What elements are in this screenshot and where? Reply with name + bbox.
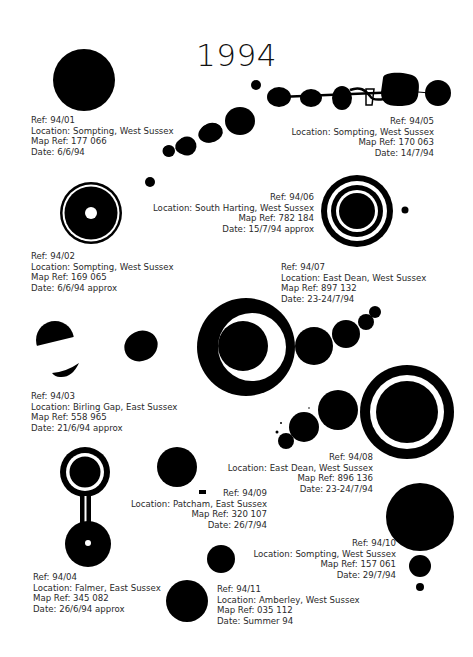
crop-circle-diagrams xyxy=(0,0,473,657)
formation-94-05 xyxy=(251,73,451,110)
caption-94-02: Ref: 94/02 Location: Sompting, West Suss… xyxy=(31,251,174,293)
caption-location: Location: East Dean, West Sussex xyxy=(228,463,373,474)
caption-date: Date: Summer 94 xyxy=(217,616,360,627)
caption-map-ref: Map Ref: 035 112 xyxy=(217,605,360,616)
caption-ref: Ref: 94/01 xyxy=(31,115,174,126)
caption-map-ref: Map Ref: 157 061 xyxy=(253,559,396,570)
caption-date: Date: 26/7/94 xyxy=(131,520,267,531)
caption-ref: Ref: 94/06 xyxy=(153,192,314,203)
caption-94-06: Ref: 94/06 Location: South Harting, West… xyxy=(153,192,314,234)
caption-location: Location: Amberley, West Sussex xyxy=(217,595,360,606)
caption-location: Location: Falmer, East Sussex xyxy=(33,583,161,594)
caption-map-ref: Map Ref: 320 107 xyxy=(131,509,267,520)
caption-ref: Ref: 94/10 xyxy=(253,538,396,549)
caption-location: Location: Patcham, East Sussex xyxy=(131,499,267,510)
caption-location: Location: Sompting, West Sussex xyxy=(291,127,434,138)
caption-date: Date: 6/6/94 xyxy=(31,147,174,158)
formation-94-06 xyxy=(321,175,409,247)
caption-ref: Ref: 94/05 xyxy=(291,116,434,127)
caption-location: Location: South Harting, West Sussex xyxy=(153,203,314,214)
caption-map-ref: Map Ref: 170 063 xyxy=(291,137,434,148)
caption-94-04: Ref: 94/04 Location: Falmer, East Sussex… xyxy=(33,572,161,614)
caption-94-07: Ref: 94/07 Location: East Dean, West Sus… xyxy=(281,262,426,304)
caption-date: Date: 6/6/94 approx xyxy=(31,283,174,294)
caption-ref: Ref: 94/09 xyxy=(131,488,267,499)
caption-date: Date: 21/6/94 approx xyxy=(31,423,177,434)
caption-location: Location: East Dean, West Sussex xyxy=(281,273,426,284)
caption-map-ref: Map Ref: 169 065 xyxy=(31,272,174,283)
caption-map-ref: Map Ref: 177 066 xyxy=(31,136,174,147)
caption-ref: Ref: 94/02 xyxy=(31,251,174,262)
page-title: 1994 xyxy=(196,40,277,71)
caption-map-ref: Map Ref: 897 132 xyxy=(281,283,426,294)
caption-ref: Ref: 94/04 xyxy=(33,572,161,583)
caption-ref: Ref: 94/07 xyxy=(281,262,426,273)
formation-94-04 xyxy=(60,447,111,567)
formation-94-02 xyxy=(60,182,122,244)
caption-date: Date: 26/6/94 approx xyxy=(33,604,161,615)
caption-94-09: Ref: 94/09 Location: Patcham, East Susse… xyxy=(131,488,267,530)
caption-ref: Ref: 94/08 xyxy=(228,452,373,463)
caption-location: Location: Sompting, West Sussex xyxy=(31,126,174,137)
caption-94-11: Ref: 94/11 Location: Amberley, West Suss… xyxy=(217,584,360,626)
caption-map-ref: Map Ref: 558 965 xyxy=(31,412,177,423)
caption-date: Date: 14/7/94 xyxy=(291,148,434,159)
caption-map-ref: Map Ref: 782 184 xyxy=(153,213,314,224)
formation-94-03 xyxy=(36,321,163,377)
caption-ref: Ref: 94/03 xyxy=(31,391,177,402)
formation-94-08 xyxy=(276,365,455,459)
caption-94-01: Ref: 94/01 Location: Sompting, West Suss… xyxy=(31,115,174,157)
caption-location: Location: Sompting, West Sussex xyxy=(253,549,396,560)
caption-date: Date: 15/7/94 approx xyxy=(153,224,314,235)
caption-94-05: Ref: 94/05 Location: Sompting, West Suss… xyxy=(291,116,434,158)
caption-94-03: Ref: 94/03 Location: Birling Gap, East S… xyxy=(31,391,177,433)
caption-ref: Ref: 94/11 xyxy=(217,584,360,595)
caption-date: Date: 29/7/94 xyxy=(253,570,396,581)
formation-94-09 xyxy=(157,447,206,494)
caption-94-10: Ref: 94/10 Location: Sompting, West Suss… xyxy=(253,538,396,580)
formation-94-07 xyxy=(197,298,381,396)
caption-location: Location: Birling Gap, East Sussex xyxy=(31,402,177,413)
caption-map-ref: Map Ref: 345 082 xyxy=(33,593,161,604)
caption-date: Date: 23-24/7/94 xyxy=(281,294,426,305)
formation-94-10 xyxy=(386,483,454,591)
caption-location: Location: Sompting, West Sussex xyxy=(31,262,174,273)
caption-map-ref: Map Ref: 896 136 xyxy=(228,473,373,484)
